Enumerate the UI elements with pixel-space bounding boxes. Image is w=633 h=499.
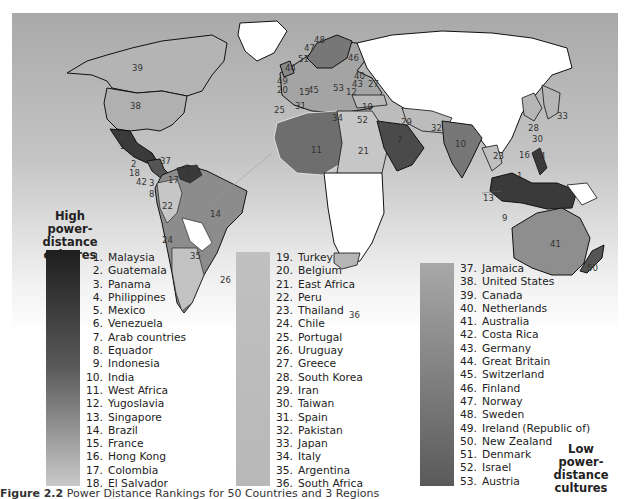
map-rank-label: 39 (132, 63, 143, 73)
legend-item-rank: 34. (273, 450, 293, 463)
legend-item-country: Australia (482, 315, 529, 328)
legend-item-rank: 28. (273, 371, 293, 384)
legend-item-country: Arab countries (108, 331, 186, 344)
legend-item: 33.Japan (273, 437, 363, 450)
legend-item: 29.Iran (273, 384, 363, 397)
legend-low-title: Low power-distance cultures (535, 443, 627, 495)
legend-item-rank: 10. (83, 371, 103, 384)
legend-item-rank: 41. (457, 315, 477, 328)
legend-item-rank: 2. (83, 264, 103, 277)
legend-item: 23.Thailand (273, 304, 363, 317)
legend-item-rank: 43. (457, 342, 477, 355)
legend-item-country: Hong Kong (108, 450, 166, 463)
map-rank-label: 23 (493, 151, 504, 161)
map-rank-label: 27 (368, 79, 379, 89)
legend-item: 44.Great Britain (457, 355, 590, 368)
map-rank-label: 38 (130, 101, 141, 111)
map-rank-label: 9 (502, 213, 507, 223)
map-rank-label: 13 (483, 193, 494, 203)
legend-item-country: Switzerland (482, 368, 544, 381)
legend-item-country: Iran (298, 384, 319, 397)
legend-item-country: Sweden (482, 408, 524, 421)
legend-item-country: Pakistan (298, 424, 343, 437)
legend-item-rank: 53. (457, 475, 477, 488)
mexico-region (110, 129, 157, 163)
map-rank-label: 31 (295, 101, 306, 111)
legend-item-rank: 7. (83, 331, 103, 344)
map-rank-label: 42 (136, 177, 147, 187)
figure-caption-label: Figure 2.2 (0, 487, 63, 499)
map-rank-label: 25 (274, 105, 285, 115)
legend-bar-low (420, 263, 454, 486)
legend-item-country: Argentina (298, 464, 350, 477)
legend-item-rank: 13. (83, 411, 103, 424)
legend-item-rank: 21. (273, 278, 293, 291)
legend-item: 48.Sweden (457, 408, 590, 421)
legend-item-country: Singapore (108, 411, 162, 424)
map-rank-label: 46 (348, 53, 359, 63)
legend-item-rank: 27. (273, 357, 293, 370)
legend-item: 39.Canada (457, 289, 590, 302)
legend-item-rank: 17. (83, 464, 103, 477)
canada-region (67, 35, 227, 96)
legend-item: 28.South Korea (273, 371, 363, 384)
map-rank-label: 41 (550, 239, 561, 249)
legend-item-rank: 46. (457, 382, 477, 395)
map-rank-label: 1 (517, 171, 522, 181)
united-states-region (104, 88, 187, 131)
legend-item-country: Brazil (108, 424, 138, 437)
map-rank-label: 29 (401, 117, 412, 127)
legend-item-country: Italy (298, 450, 321, 463)
legend-item: 17.Colombia (83, 464, 186, 477)
legend-item-rank: 5. (83, 304, 103, 317)
map-rank-label: 26 (220, 275, 231, 285)
legend-item-rank: 38. (457, 275, 477, 288)
legend-item-rank: 51. (457, 448, 477, 461)
legend-item-country: Taiwan (298, 397, 334, 410)
map-rank-label: 8 (149, 189, 154, 199)
legend-list-high: 1.Malaysia2.Guatemala3.Panama4.Philippin… (83, 251, 186, 490)
legend-item-country: Uruguay (298, 344, 343, 357)
legend-item-country: Spain (298, 411, 328, 424)
legend-item-rank: 26. (273, 344, 293, 357)
legend-item-rank: 48. (457, 408, 477, 421)
legend-item-rank: 44. (457, 355, 477, 368)
legend-item: 5.Mexico (83, 304, 186, 317)
legend-item-rank: 35. (273, 464, 293, 477)
legend-item-country: Guatemala (108, 264, 167, 277)
low-title-line-3: cultures (535, 482, 627, 495)
legend-item-country: Costa Rica (482, 328, 539, 341)
map-rank-label: 10 (455, 139, 466, 149)
legend-item-country: Yugoslavia (108, 397, 164, 410)
map-rank-label: 34 (332, 113, 343, 123)
legend-item: 24.Chile (273, 317, 363, 330)
legend-item: 34.Italy (273, 450, 363, 463)
legend-bar-high (46, 250, 80, 486)
legend-item: 43.Germany (457, 342, 590, 355)
legend-item: 4.Philippines (83, 291, 186, 304)
legend-item-country: Israel (482, 461, 511, 474)
map-rank-label: 19 (362, 102, 373, 112)
legend-item-rank: 12. (83, 397, 103, 410)
legend-item: 6.Venezuela (83, 317, 186, 330)
map-rank-label: 16 (519, 150, 530, 160)
legend-item: 3.Panama (83, 278, 186, 291)
legend-item: 42.Costa Rica (457, 328, 590, 341)
legend-item-rank: 4. (83, 291, 103, 304)
legend-item: 14.Brazil (83, 424, 186, 437)
legend-item: 22.Peru (273, 291, 363, 304)
legend-item-country: Finland (482, 382, 520, 395)
map-rank-label: 37 (160, 156, 171, 166)
legend-item: 16.Hong Kong (83, 450, 186, 463)
legend-item: 1.Malaysia (83, 251, 186, 264)
legend-item: 38.United States (457, 275, 590, 288)
map-rank-label: 30 (532, 134, 543, 144)
legend-item-country: Great Britain (482, 355, 550, 368)
india-region (442, 121, 482, 178)
legend-item: 19.Turkey (273, 251, 363, 264)
map-rank-label: 52 (357, 115, 368, 125)
legend-item-rank: 25. (273, 331, 293, 344)
legend-item-rank: 3. (83, 278, 103, 291)
legend-item: 15.France (83, 437, 186, 450)
greenland-region (238, 21, 287, 61)
